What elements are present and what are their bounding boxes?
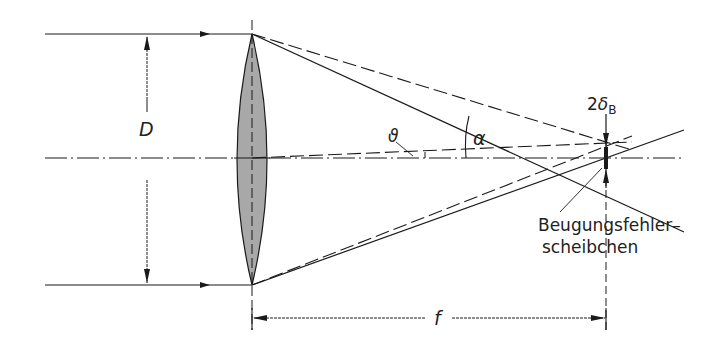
focal-length-label: f — [434, 307, 444, 329]
spot-size-label: 2δB — [587, 94, 616, 117]
refracted-ray-bottom — [252, 130, 684, 285]
disc-leader — [560, 168, 602, 212]
tilted-ray-top — [252, 34, 632, 150]
refracted-ray-top — [252, 34, 684, 232]
diameter-label: D — [139, 118, 154, 140]
alpha-label: α — [473, 127, 486, 149]
disc-label-line1: Beugungsfehler– — [538, 215, 681, 235]
theta-label: ϑ — [388, 126, 399, 146]
tilted-chief-ray — [252, 142, 632, 158]
theta-leader — [396, 142, 413, 156]
lens-diagram: D ϑ α 2δB Beugungsfehler– scheibchen f — [0, 0, 710, 345]
diffraction-disc — [604, 147, 608, 169]
disc-label-line2: scheibchen — [542, 237, 638, 257]
alpha-arc — [465, 116, 469, 158]
